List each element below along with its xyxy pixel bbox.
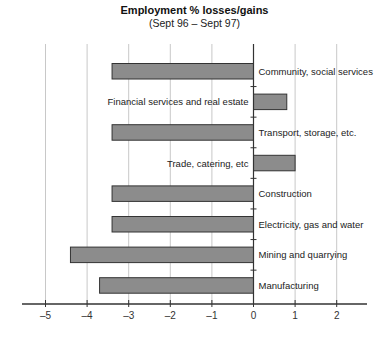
x-tick-label: 1 bbox=[292, 310, 298, 321]
category-label: Electricity, gas and water bbox=[259, 219, 364, 230]
bar bbox=[70, 247, 253, 263]
category-label: Trade, catering, etc bbox=[167, 158, 249, 169]
x-tick-label: –5 bbox=[40, 310, 52, 321]
category-label: Mining and quarrying bbox=[259, 249, 348, 260]
zero-axis bbox=[251, 44, 257, 304]
category-label: Manufacturing bbox=[259, 280, 319, 291]
bar bbox=[100, 278, 254, 294]
x-tick-label: –3 bbox=[123, 310, 135, 321]
x-tick-label: –2 bbox=[165, 310, 177, 321]
x-tick-label: –4 bbox=[82, 310, 94, 321]
category-label: Financial services and real estate bbox=[108, 96, 249, 107]
bar bbox=[112, 186, 253, 202]
x-tick-label: –1 bbox=[206, 310, 218, 321]
bar bbox=[112, 217, 253, 233]
bar bbox=[112, 64, 253, 80]
bar bbox=[254, 94, 287, 110]
category-label: Construction bbox=[259, 188, 312, 199]
x-tick-label: 2 bbox=[334, 310, 340, 321]
bar-chart: Community, social servicesFinancial serv… bbox=[0, 0, 389, 339]
x-axis: –5–4–3–2–1012 bbox=[22, 300, 367, 321]
bar bbox=[254, 155, 296, 171]
category-label: Transport, storage, etc. bbox=[259, 127, 357, 138]
bar bbox=[112, 125, 253, 141]
category-label: Community, social services bbox=[259, 66, 374, 77]
x-tick-label: 0 bbox=[251, 310, 257, 321]
gridlines bbox=[46, 44, 337, 304]
